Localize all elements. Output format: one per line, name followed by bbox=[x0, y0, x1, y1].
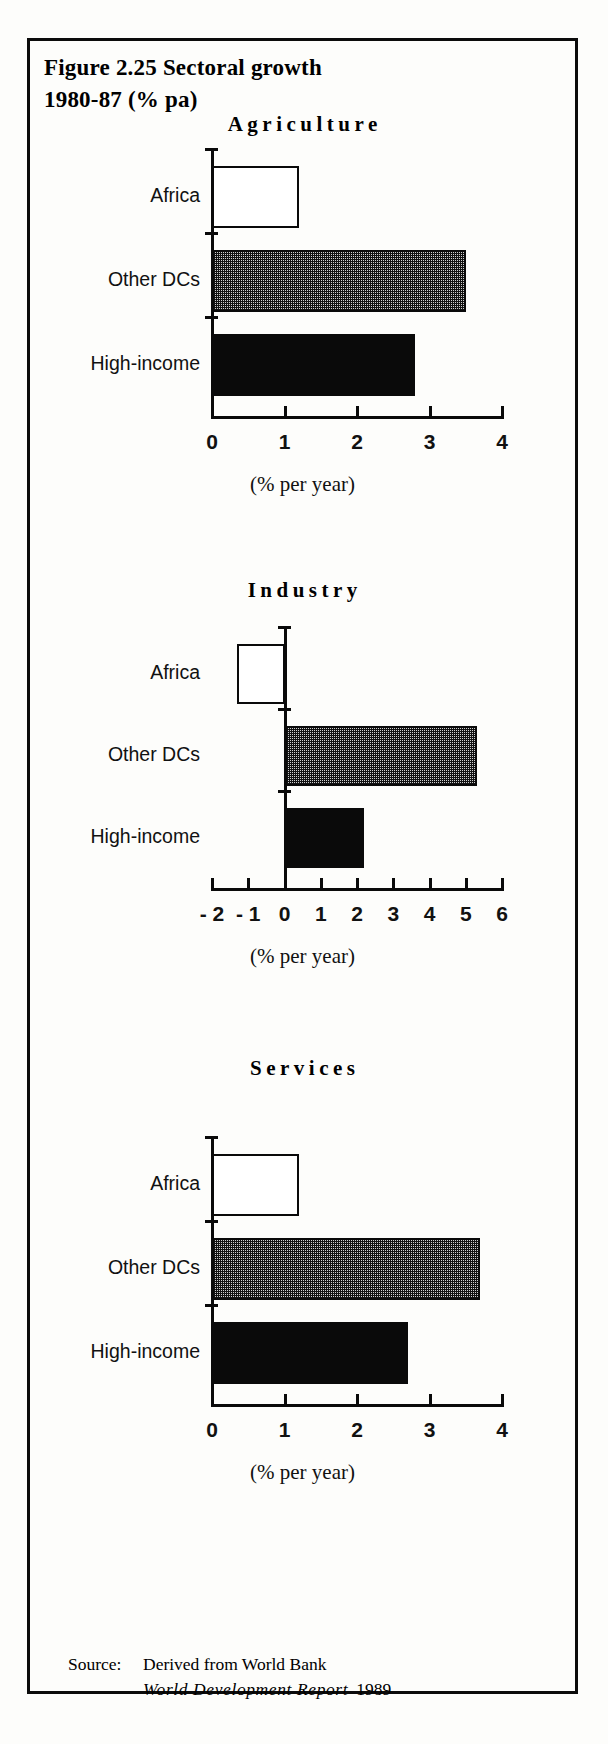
value-axis-tick bbox=[284, 1394, 287, 1407]
value-axis-tick bbox=[247, 878, 250, 891]
axis-caption: (% per year) bbox=[28, 472, 577, 497]
category-axis-tick bbox=[205, 316, 218, 319]
chart-title-agriculture: Agriculture bbox=[28, 112, 577, 137]
bar-high-income bbox=[212, 1322, 408, 1384]
value-axis-tick bbox=[392, 878, 395, 891]
source-label: Source: bbox=[68, 1652, 143, 1677]
category-axis-tick bbox=[205, 1220, 218, 1223]
bar-africa bbox=[212, 1154, 299, 1216]
category-label-africa: Africa bbox=[28, 661, 200, 684]
value-axis-tick-label: 0 bbox=[265, 902, 305, 926]
category-label-other-dcs: Other DCs bbox=[28, 1256, 200, 1279]
value-axis-tick-label: 0 bbox=[192, 430, 232, 454]
bar-africa bbox=[212, 166, 299, 228]
category-axis-tick bbox=[278, 708, 291, 711]
axis-caption: (% per year) bbox=[28, 944, 577, 969]
value-axis-tick bbox=[356, 406, 359, 419]
value-axis-tick bbox=[211, 1394, 214, 1407]
value-axis-tick bbox=[284, 406, 287, 419]
value-axis-tick-label: 4 bbox=[482, 430, 522, 454]
value-axis-tick bbox=[501, 1394, 504, 1407]
category-label-africa: Africa bbox=[28, 1172, 200, 1195]
category-label-other-dcs: Other DCs bbox=[28, 268, 200, 291]
value-axis-tick-label: 1 bbox=[265, 1418, 305, 1442]
category-axis-tick bbox=[205, 148, 218, 151]
chart-title-services: Services bbox=[28, 1056, 577, 1081]
value-axis-tick bbox=[429, 878, 432, 891]
value-axis-tick bbox=[465, 878, 468, 891]
source-text: Derived from World Bank bbox=[143, 1654, 326, 1674]
value-axis-tick bbox=[320, 878, 323, 891]
figure-page: Figure 2.25 Sectoral growth 1980-87 (% p… bbox=[0, 0, 608, 1744]
value-axis-tick-label: - 1 bbox=[228, 902, 268, 926]
value-axis-tick-label: 1 bbox=[301, 902, 341, 926]
value-axis-tick bbox=[284, 878, 287, 891]
value-axis-tick bbox=[429, 1394, 432, 1407]
category-axis-tick bbox=[205, 1136, 218, 1139]
source-note: Source:Derived from World Bank World Dev… bbox=[68, 1652, 538, 1702]
category-label-high-income: High-income bbox=[28, 825, 200, 848]
bar-other-dcs bbox=[212, 1238, 480, 1300]
category-label-other-dcs: Other DCs bbox=[28, 743, 200, 766]
chart-panel-agriculture: Agriculture AfricaOther DCsHigh-income01… bbox=[28, 112, 577, 532]
chart-title-industry: Industry bbox=[28, 578, 577, 603]
source-publication: World Development Report bbox=[143, 1679, 348, 1699]
value-axis-tick-label: 3 bbox=[410, 430, 450, 454]
value-axis-tick-label: 6 bbox=[482, 902, 522, 926]
category-label-high-income: High-income bbox=[28, 352, 200, 375]
value-axis-tick bbox=[211, 878, 214, 891]
value-axis-tick-label: 2 bbox=[337, 430, 377, 454]
value-axis-tick bbox=[429, 406, 432, 419]
source-line-one: Source:Derived from World Bank bbox=[68, 1652, 538, 1677]
bar-high-income bbox=[212, 334, 415, 396]
value-axis-tick bbox=[501, 878, 504, 891]
value-axis-tick-label: 3 bbox=[373, 902, 413, 926]
category-axis-tick bbox=[205, 232, 218, 235]
value-axis-tick bbox=[356, 878, 359, 891]
category-label-high-income: High-income bbox=[28, 1340, 200, 1363]
value-axis-tick bbox=[356, 1394, 359, 1407]
value-axis-tick-label: 4 bbox=[482, 1418, 522, 1442]
bar-high-income bbox=[285, 808, 365, 868]
value-axis-tick bbox=[211, 406, 214, 419]
value-axis-tick-label: 2 bbox=[337, 1418, 377, 1442]
value-axis-tick-label: 5 bbox=[446, 902, 486, 926]
source-year: 1989 bbox=[348, 1679, 391, 1699]
category-axis-tick bbox=[278, 790, 291, 793]
value-axis-tick-label: - 2 bbox=[192, 902, 232, 926]
category-axis-tick bbox=[278, 626, 291, 629]
category-axis-tick bbox=[205, 1304, 218, 1307]
value-axis-tick bbox=[501, 406, 504, 419]
value-axis-tick-label: 3 bbox=[410, 1418, 450, 1442]
source-line-two: World Development Report1989 bbox=[68, 1677, 538, 1702]
value-axis-tick-label: 0 bbox=[192, 1418, 232, 1442]
page-title: Figure 2.25 Sectoral growth 1980-87 (% p… bbox=[44, 52, 544, 116]
category-label-africa: Africa bbox=[28, 184, 200, 207]
bar-africa bbox=[237, 644, 284, 704]
value-axis-tick-label: 4 bbox=[410, 902, 450, 926]
value-axis-tick-label: 1 bbox=[265, 430, 305, 454]
axis-caption: (% per year) bbox=[28, 1460, 577, 1485]
chart-panel-industry: Industry AfricaOther DCsHigh-income- 2- … bbox=[28, 578, 577, 1008]
bar-other-dcs bbox=[285, 726, 477, 786]
chart-panel-services: Services AfricaOther DCsHigh-income01234… bbox=[28, 1056, 577, 1506]
bar-other-dcs bbox=[212, 250, 466, 312]
value-axis-tick-label: 2 bbox=[337, 902, 377, 926]
